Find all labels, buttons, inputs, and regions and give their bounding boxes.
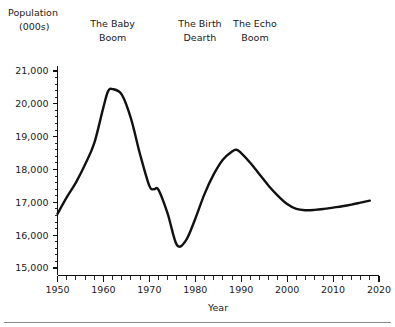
- population-data-line: [58, 89, 370, 247]
- y-axis-major-ticks: [53, 71, 58, 268]
- population-line-chart-figure: Population (000s) The BabyBoomThe BirthD…: [0, 0, 395, 327]
- y-axis-tick-labels: 15,00016,00017,00018,00019,00020,00021,0…: [15, 65, 48, 273]
- y-tick-label: 21,000: [15, 65, 48, 76]
- y-tick-label: 18,000: [15, 164, 48, 175]
- y-tick-label: 16,000: [15, 230, 48, 241]
- x-tick-label: 2020: [367, 284, 391, 295]
- chart-canvas: Population (000s) The BabyBoomThe BirthD…: [0, 0, 395, 327]
- annotation-line1: The Echo: [232, 18, 277, 29]
- annotations-layer: The BabyBoomThe BirthDearthThe EchoBoom: [89, 18, 277, 43]
- x-axis-major-ticks: [58, 276, 380, 282]
- y-axis-title-line2: (000s): [19, 21, 50, 32]
- y-tick-label: 20,000: [15, 98, 48, 109]
- x-axis-tick-labels: 19501960197019801990200020102020: [45, 284, 391, 295]
- annotation-line2: Dearth: [184, 32, 217, 43]
- x-tick-label: 1960: [91, 284, 115, 295]
- x-tick-label: 2000: [275, 284, 299, 295]
- annotation-line1: The Baby: [89, 18, 135, 29]
- x-tick-label: 1950: [45, 284, 69, 295]
- x-tick-label: 1990: [229, 284, 253, 295]
- y-axis-title-group: Population (000s): [8, 7, 58, 32]
- x-tick-label: 1970: [137, 284, 161, 295]
- annotation-line2: Boom: [99, 32, 126, 43]
- y-tick-label: 19,000: [15, 131, 48, 142]
- annotation-line1: The Birth: [177, 18, 222, 29]
- x-tick-label: 1980: [183, 284, 207, 295]
- y-axis-title-line1: Population: [8, 7, 58, 18]
- x-axis-minor-ticks: [67, 276, 370, 280]
- annotation-line2: Boom: [241, 32, 268, 43]
- chart-annotation: The BabyBoom: [89, 18, 135, 43]
- y-tick-label: 17,000: [15, 197, 48, 208]
- chart-annotation: The BirthDearth: [177, 18, 222, 43]
- x-tick-label: 2010: [321, 284, 345, 295]
- y-tick-label: 15,000: [15, 262, 48, 273]
- x-axis-title: Year: [207, 302, 228, 313]
- chart-annotation: The EchoBoom: [232, 18, 277, 43]
